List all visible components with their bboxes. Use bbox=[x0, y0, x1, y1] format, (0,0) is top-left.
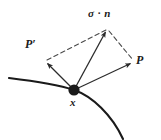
label-p-prime: P′ bbox=[25, 38, 36, 50]
dashed-edge-right bbox=[109, 31, 133, 60]
label-point-x: x bbox=[70, 97, 76, 108]
label-p: P bbox=[136, 54, 143, 66]
dashed-edge-left bbox=[47, 30, 106, 60]
vector-traction bbox=[74, 32, 106, 90]
figure-canvas: σ · n P′ P x bbox=[0, 0, 161, 140]
vector-p bbox=[74, 64, 131, 91]
figure-svg bbox=[0, 0, 161, 140]
label-traction-vector: σ · n bbox=[88, 8, 111, 19]
surface-curve bbox=[9, 78, 123, 139]
point-marker-x bbox=[68, 84, 79, 95]
